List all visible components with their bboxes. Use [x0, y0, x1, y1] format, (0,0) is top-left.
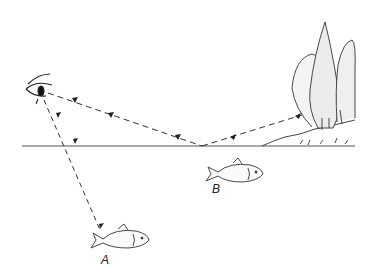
ray-to-fish-a: [44, 100, 104, 230]
reflected-ray-from-trees: [48, 93, 305, 146]
eye-icon: [26, 74, 52, 104]
fish-b-label: B: [212, 182, 220, 196]
fish-a-label: A: [101, 253, 109, 267]
diagram-canvas: [0, 0, 375, 278]
trees-on-bank: [262, 22, 355, 146]
fish-a: [91, 224, 149, 248]
fish-b: [206, 158, 263, 182]
